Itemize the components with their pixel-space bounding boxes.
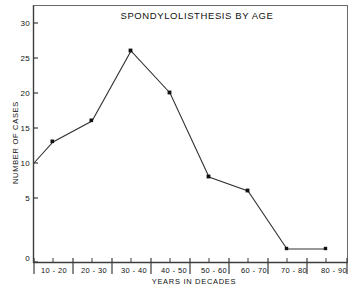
- data-point-70-80: [285, 247, 288, 250]
- data-markers: [51, 49, 328, 251]
- plot-area: [0, 0, 354, 293]
- data-point-50-60: [207, 175, 211, 179]
- data-point-80-90: [324, 247, 327, 250]
- data-point-60-70: [246, 189, 250, 193]
- x-tick-separators: [34, 258, 347, 274]
- data-point-10-20: [51, 140, 55, 144]
- data-line: [34, 51, 326, 249]
- data-point-20-30: [90, 119, 94, 123]
- chart-figure: SPONDYLOLISTHESIS BY AGE NUMBER OF CASES…: [0, 0, 354, 293]
- data-point-40-50: [168, 91, 172, 95]
- data-point-30-40: [129, 49, 133, 53]
